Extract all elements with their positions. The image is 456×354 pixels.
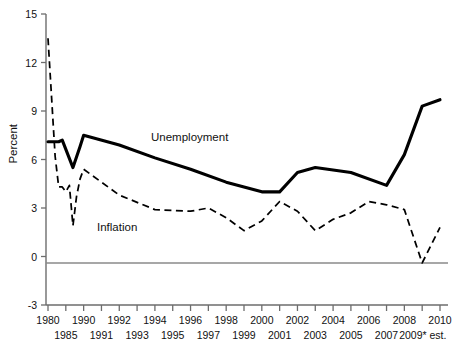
y-tick-label: 0 bbox=[0, 252, 37, 263]
y-tick-label: 15 bbox=[0, 9, 37, 20]
y-axis-title: Percent bbox=[8, 109, 20, 179]
x-axis-ticks bbox=[48, 305, 440, 311]
x-tick-label: 2009* est. bbox=[399, 330, 445, 341]
series-label-inflation: Inflation bbox=[97, 222, 137, 234]
y-axis-ticks bbox=[41, 14, 46, 305]
chart-figure: Percent 15129630-3 198019851990199119921… bbox=[0, 0, 456, 354]
series-line-unemployment bbox=[48, 100, 440, 192]
x-tick-label: 2010 bbox=[417, 315, 456, 326]
y-tick-label: -3 bbox=[0, 300, 37, 311]
y-tick-label: 12 bbox=[0, 58, 37, 69]
y-tick-label: 9 bbox=[0, 106, 37, 117]
series-label-unemployment: Unemployment bbox=[151, 132, 228, 144]
chart-plot-area bbox=[0, 0, 456, 354]
chart-axes bbox=[41, 14, 448, 311]
y-tick-label: 6 bbox=[0, 155, 37, 166]
y-tick-label: 3 bbox=[0, 203, 37, 214]
